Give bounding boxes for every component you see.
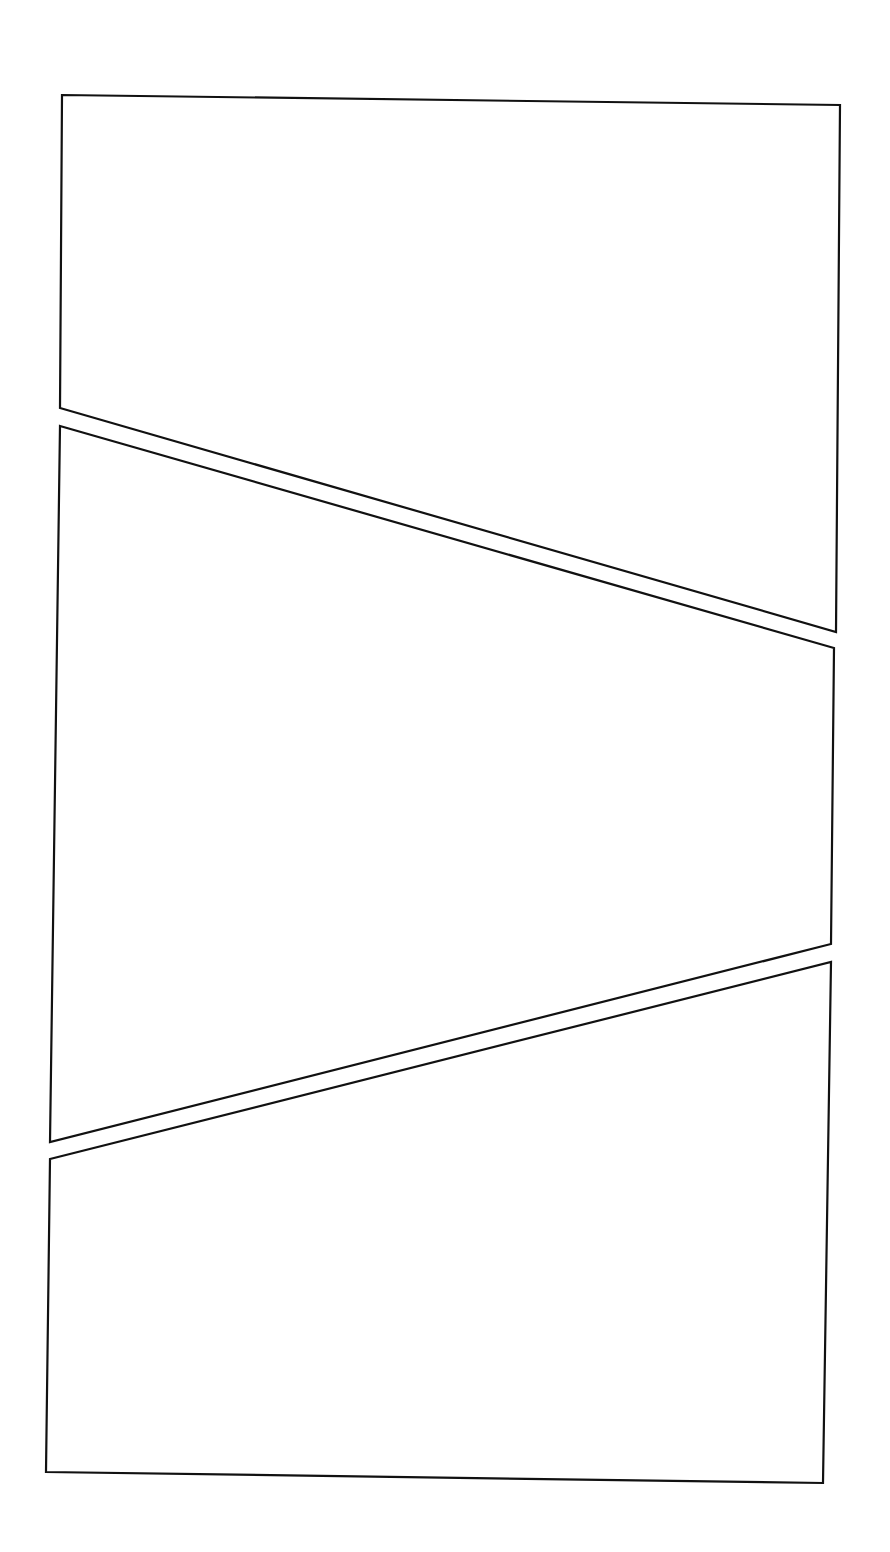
panel-layout bbox=[0, 0, 890, 1552]
comic-page bbox=[0, 0, 890, 1552]
